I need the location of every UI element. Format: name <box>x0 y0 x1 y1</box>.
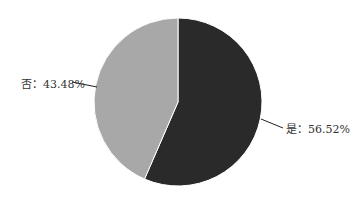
pie-chart <box>0 0 357 205</box>
label-no: 否：43.48% <box>21 75 85 91</box>
leader-line-yes <box>261 119 283 128</box>
label-yes: 是：56.52% <box>286 120 350 136</box>
